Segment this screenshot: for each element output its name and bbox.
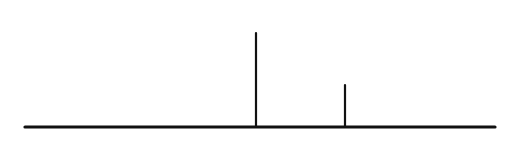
normal-distribution-figure — [0, 0, 513, 163]
distribution-chart-canvas — [0, 0, 513, 163]
